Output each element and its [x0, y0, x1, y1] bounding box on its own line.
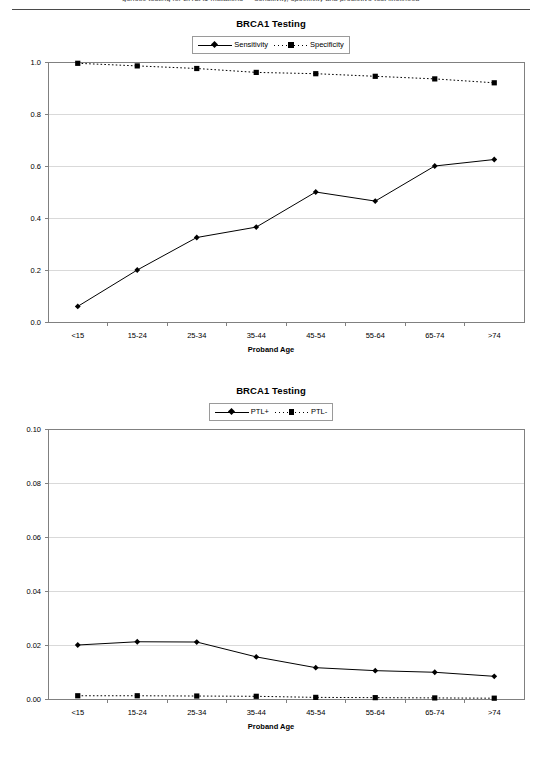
x-tick-label: 25-34 — [187, 708, 206, 717]
data-point-marker — [75, 642, 81, 648]
data-point-marker — [194, 693, 199, 698]
x-tick-label: 55-64 — [366, 708, 385, 717]
legend-item-sensitivity[interactable]: Sensitivity — [198, 40, 268, 50]
data-point-marker — [134, 639, 140, 645]
data-point-marker — [313, 695, 318, 700]
figure-2-xaxis-title: Proband Age — [0, 722, 542, 731]
series-line-specificity — [78, 63, 495, 83]
page-running-head: genetic testing for BRCA1 mutations — se… — [0, 0, 542, 12]
figure-2-plot: 0.000.020.040.060.080.10<1515-2425-3435-… — [0, 421, 542, 721]
data-point-marker — [313, 71, 318, 76]
data-point-marker — [492, 696, 497, 701]
x-tick-label: <15 — [71, 331, 84, 340]
data-point-marker — [253, 224, 259, 230]
data-point-marker — [313, 189, 319, 195]
x-tick-label: 25-34 — [187, 331, 206, 340]
data-point-marker — [254, 694, 259, 699]
x-tick-label: 35-44 — [247, 331, 266, 340]
data-point-marker — [373, 74, 378, 79]
figure-2-legend: PTL+ PTL- — [0, 403, 542, 421]
series-line-ptl- — [78, 696, 495, 698]
figure-2-svg: 0.000.020.040.060.080.10<1515-2425-3435-… — [0, 421, 542, 721]
figure-1-title: BRCA1 Testing — [0, 18, 542, 30]
legend-item-ptl-positive[interactable]: PTL+ — [215, 407, 269, 417]
y-tick-label: 1.0 — [31, 58, 41, 67]
figure-1-plot: 0.00.20.40.60.81.0<1515-2425-3435-4445-5… — [0, 54, 542, 344]
x-tick-label: 15-24 — [128, 331, 147, 340]
data-point-marker — [254, 70, 259, 75]
series-line-ptl- — [78, 642, 495, 677]
y-tick-label: 0.0 — [31, 318, 41, 327]
figure-ptl: BRCA1 Testing PTL+ PTL- 0.000.020.040.06… — [0, 385, 542, 731]
x-tick-label: <15 — [71, 708, 84, 717]
y-tick-label: 0.2 — [31, 266, 41, 275]
data-point-marker — [75, 304, 81, 310]
x-tick-label: >74 — [488, 708, 501, 717]
figure-1-xaxis-title: Proband Age — [0, 345, 542, 354]
data-point-marker — [135, 63, 140, 68]
dotted-line-square-marker-icon — [275, 408, 309, 417]
solid-line-diamond-marker-icon — [198, 41, 232, 50]
data-point-marker — [432, 669, 438, 675]
data-point-marker — [135, 693, 140, 698]
data-point-marker — [194, 639, 200, 645]
data-point-marker — [253, 654, 259, 660]
y-tick-label: 0.4 — [31, 214, 41, 223]
data-point-marker — [372, 668, 378, 674]
data-point-marker — [491, 673, 497, 679]
legend-label-specificity: Specificity — [310, 40, 344, 50]
y-tick-label: 0.04 — [26, 587, 41, 596]
legend-item-specificity[interactable]: Specificity — [274, 40, 344, 50]
figure-1-svg: 0.00.20.40.60.81.0<1515-2425-3435-4445-5… — [0, 54, 542, 344]
data-point-marker — [373, 695, 378, 700]
figure-2-title: BRCA1 Testing — [0, 385, 542, 397]
y-tick-label: 0.08 — [26, 479, 41, 488]
y-tick-label: 0.10 — [26, 425, 41, 434]
solid-line-diamond-marker-icon — [215, 408, 249, 417]
legend-label-sensitivity: Sensitivity — [234, 40, 268, 50]
x-tick-label: >74 — [488, 331, 501, 340]
dotted-line-square-marker-icon — [274, 41, 308, 50]
y-tick-label: 0.8 — [31, 110, 41, 119]
data-point-marker — [75, 693, 80, 698]
running-head-text: genetic testing for BRCA1 mutations — se… — [0, 0, 542, 2]
data-point-marker — [432, 76, 437, 81]
x-tick-label: 15-24 — [128, 708, 147, 717]
data-point-marker — [134, 267, 140, 273]
x-tick-label: 45-54 — [306, 708, 325, 717]
y-tick-label: 0.6 — [31, 162, 41, 171]
figure-1-legend: Sensitivity Specificity — [0, 36, 542, 54]
legend-item-ptl-negative[interactable]: PTL- — [275, 407, 327, 417]
x-tick-label: 65-74 — [425, 708, 444, 717]
data-point-marker — [194, 66, 199, 71]
x-tick-label: 45-54 — [306, 331, 325, 340]
x-tick-label: 55-64 — [366, 331, 385, 340]
x-tick-label: 65-74 — [425, 331, 444, 340]
data-point-marker — [75, 61, 80, 66]
x-tick-label: 35-44 — [247, 708, 266, 717]
data-point-marker — [492, 80, 497, 85]
data-point-marker — [432, 695, 437, 700]
legend-label-ptl-negative: PTL- — [311, 407, 327, 417]
legend-label-ptl-positive: PTL+ — [251, 407, 269, 417]
figure-sensitivity-specificity: BRCA1 Testing Sensitivity Specificity 0.… — [0, 18, 542, 354]
data-point-marker — [194, 235, 200, 241]
series-line-sensitivity — [78, 160, 495, 307]
header-divider-rule — [12, 9, 530, 10]
y-tick-label: 0.00 — [26, 695, 41, 704]
data-point-marker — [432, 163, 438, 169]
y-tick-label: 0.02 — [26, 641, 41, 650]
data-point-marker — [313, 665, 319, 671]
y-tick-label: 0.06 — [26, 533, 41, 542]
data-point-marker — [491, 157, 497, 163]
data-point-marker — [372, 198, 378, 204]
